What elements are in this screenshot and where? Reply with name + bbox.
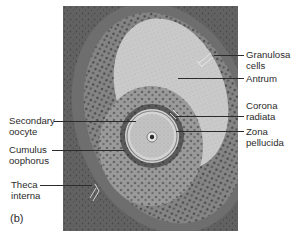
follicle-illustration [63, 6, 238, 231]
label-cumulus-oophorus: Cumulus oophorus [9, 144, 49, 166]
theca-leader-line [40, 185, 92, 186]
label-secondary-oocyte: Secondary oocyte [9, 115, 55, 137]
label-antrum: Antrum [246, 73, 277, 84]
corona-leader-line [176, 116, 244, 117]
zona-leader-line [176, 131, 244, 132]
granulosa-leader-line [214, 55, 244, 56]
panel-label: (b) [10, 212, 23, 224]
cumulus-leader-line [52, 150, 124, 151]
label-theca-interna: Theca interna [11, 179, 40, 201]
label-granulosa-cells: Granulosa cells [246, 49, 290, 71]
label-corona-radiata: Corona radiata [246, 100, 277, 122]
label-zona-pellucida: Zona pellucida [246, 126, 284, 148]
oocyte-leader-line [54, 121, 136, 122]
micrograph [63, 6, 238, 231]
antrum-leader-line [178, 78, 244, 79]
